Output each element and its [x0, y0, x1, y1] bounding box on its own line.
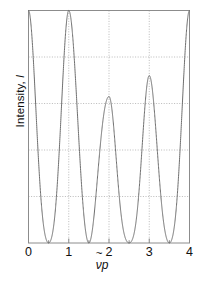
x-tick-label-1: 1	[65, 245, 72, 259]
chart-figure: Intensity, I 01234 νp	[0, 0, 204, 285]
horizontal-gridlines	[29, 57, 190, 197]
y-axis-title-symbol: I	[14, 75, 26, 78]
x-axis-title: νp	[0, 258, 204, 272]
x-axis-symbol-nu: ν	[96, 258, 102, 272]
x-tick-label-4: 4	[186, 245, 193, 259]
x-axis-symbol-p: p	[102, 258, 109, 272]
x-tick-label-0: 0	[25, 245, 32, 259]
x-tick-label-3: 3	[146, 245, 153, 259]
y-axis-title-text: Intensity,	[14, 78, 26, 127]
x-tick-label-2: 2	[106, 245, 113, 259]
y-axis-title: Intensity, I	[14, 36, 26, 166]
